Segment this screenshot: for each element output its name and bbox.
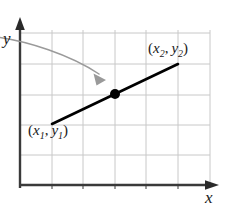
point2-close-paren: ) bbox=[183, 40, 188, 57]
midpoint-dot bbox=[110, 89, 120, 99]
y-axis-label: y bbox=[1, 29, 11, 48]
point2-y-var: y bbox=[169, 40, 178, 56]
annotation-arrow-icon bbox=[0, 36, 106, 86]
svg-text:(x2,y2): (x2,y2) bbox=[148, 40, 188, 59]
x-axis-label: x bbox=[204, 188, 213, 205]
point2-label: (x2,y2) bbox=[148, 40, 188, 59]
point1-y-var: y bbox=[49, 122, 58, 138]
point1-comma: , bbox=[45, 122, 49, 138]
x-axis bbox=[19, 180, 219, 190]
figure-canvas: y x (x1,y1) (x2,y2) bbox=[0, 0, 231, 205]
point1-close-paren: ) bbox=[63, 122, 68, 139]
point2-comma: , bbox=[165, 40, 169, 56]
